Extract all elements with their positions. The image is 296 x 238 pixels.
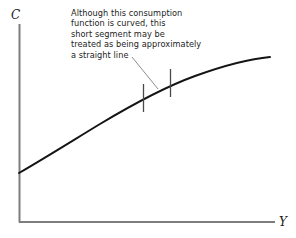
x-axis-label: Y [279,216,287,228]
y-axis-label: C [11,9,20,21]
consumption-curve [19,57,270,173]
consumption-function-figure: C Y Although this consumption function i… [0,0,296,238]
leader-line [132,57,158,89]
annotation-callout-text: Although this consumption function is cu… [71,8,223,60]
